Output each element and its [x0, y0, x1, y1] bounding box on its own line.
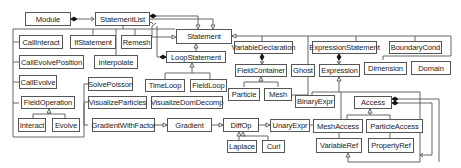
class-field-loop: FieldLoop	[190, 79, 227, 92]
class-binary-expr: BinaryExpr	[295, 95, 335, 108]
class-ghost: Ghost	[291, 64, 315, 77]
class-gradient-with-factor: GradientWithFactor	[92, 118, 155, 132]
class-field-container: FieldContainer	[235, 64, 287, 77]
class-boundary-cond: BoundaryCond	[389, 41, 442, 54]
class-diff-op: DiffOp	[223, 118, 259, 132]
class-particle: Particle	[228, 88, 260, 101]
class-gradient: Gradient	[167, 118, 212, 132]
class-expression: Expression	[319, 64, 360, 77]
class-module: Module	[25, 12, 71, 26]
class-unary-expr: UnaryExpr	[270, 119, 310, 132]
class-call-interact: CallInteract	[19, 35, 63, 49]
class-variable-ref: VariableRef	[316, 138, 362, 153]
class-if-statement: IfStatement	[70, 35, 116, 49]
class-curl: Curl	[262, 140, 285, 153]
class-statement-list: StatementList	[95, 12, 150, 26]
class-call-evolve-position: CallEvolvePosition	[19, 55, 84, 69]
uml-class-diagram: Module StatementList Statement VariableD…	[0, 0, 461, 168]
class-access: Access	[354, 96, 392, 109]
class-interact: Interact	[18, 118, 46, 132]
class-interpolate: Interpolate	[94, 55, 138, 69]
class-evolve: Evolve	[52, 118, 80, 132]
class-remesh: Remesh	[121, 35, 152, 49]
class-dimension: Dimension	[364, 62, 407, 75]
class-laplace: Laplace	[227, 140, 257, 153]
class-statement: Statement	[176, 29, 232, 44]
class-time-loop: TimeLoop	[145, 79, 185, 92]
class-mesh-access: MeshAccess	[313, 119, 363, 133]
class-field-operation: FieldOperation	[21, 96, 75, 109]
class-call-evolve: CallEvolve	[19, 75, 57, 89]
class-mesh: Mesh	[264, 88, 292, 101]
class-property-ref: PropertyRef	[368, 138, 414, 153]
class-solve-poisson: SolvePoisson	[88, 77, 133, 91]
class-domain: Domain	[411, 61, 451, 75]
class-expression-statement: ExpressionStatement	[312, 41, 377, 54]
class-visualize-dom-decomp: VisualizeDomDecomp	[151, 96, 223, 109]
class-variable-declaration: VariableDeclaration	[234, 41, 293, 54]
class-loop-statement: LoopStatement	[166, 51, 226, 63]
class-particle-access: ParticleAccess	[366, 119, 423, 133]
class-visualize-particles: VisualizeParticles	[88, 96, 147, 109]
